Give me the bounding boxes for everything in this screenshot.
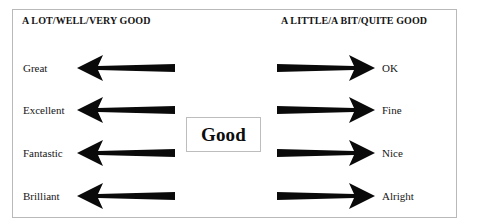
row-label-right-3: Nice [382,148,403,159]
arrow-left-icon-1 [77,55,175,81]
synonym-scale-diagram: A LOT/WELL/VERY GOOD A LITTLE/A BIT/QUIT… [0,0,479,224]
column-header-right: A LITTLE/A BIT/QUITE GOOD [281,16,427,26]
row-label-left-2: Excellent [23,105,65,116]
center-node-label: Good [201,125,246,144]
arrow-left-icon-4 [77,183,175,209]
arrow-right-icon-3 [277,140,375,166]
row-label-left-3: Fantastic [23,148,63,159]
arrow-right-icon-4 [277,183,375,209]
row-label-right-4: Alright [382,191,414,202]
arrow-right-icon-2 [277,97,375,123]
row-label-right-1: OK [382,63,398,74]
center-node-good: Good [186,117,261,152]
column-header-left: A LOT/WELL/VERY GOOD [22,16,151,26]
row-label-left-4: Brilliant [23,191,60,202]
arrow-left-icon-3 [77,140,175,166]
arrow-right-icon-1 [277,55,375,81]
row-label-right-2: Fine [382,105,402,116]
arrow-left-icon-2 [77,97,175,123]
row-label-left-1: Great [23,63,47,74]
